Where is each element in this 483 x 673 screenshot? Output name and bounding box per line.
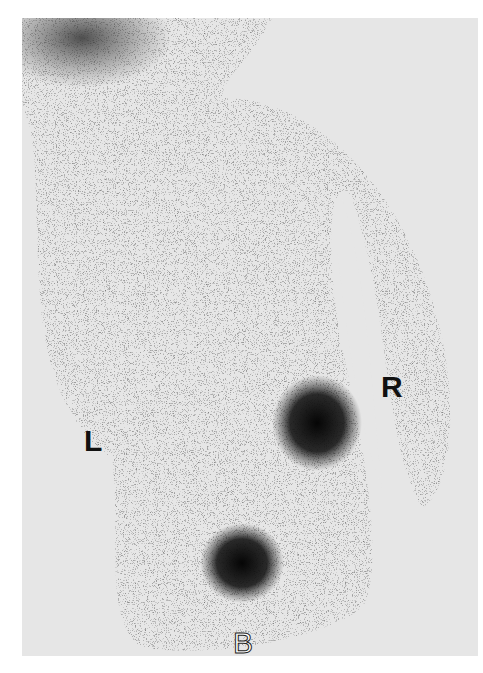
- label-bottom: B: [233, 628, 253, 656]
- label-right: R: [381, 372, 403, 402]
- label-left: L: [84, 426, 102, 456]
- scintigraphy-image: L R B: [22, 18, 478, 656]
- scan-texture: [22, 18, 478, 656]
